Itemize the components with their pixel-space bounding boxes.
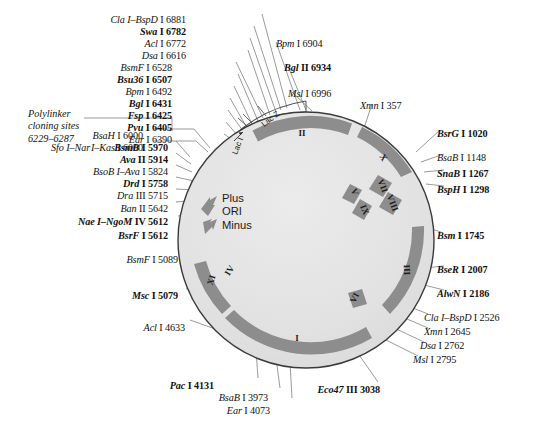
site-position: 4633 — [163, 322, 185, 333]
site-position: 6405 — [150, 122, 172, 133]
site-position: 1298 — [467, 184, 489, 195]
site-label-right-1: BsaB I 1148 — [437, 152, 486, 164]
polylinker-line-1: Polylinker — [28, 108, 79, 120]
enzyme-name-part: Dra — [117, 190, 133, 201]
enzyme-name-part: BsrF — [118, 230, 139, 241]
enzyme-name-part: BsaH — [93, 130, 115, 141]
enzyme-name-part: Msl — [413, 354, 428, 365]
site-label-bottom-0: Eco47 III 3038 — [317, 384, 380, 396]
enzyme-name-part: Nae — [78, 216, 95, 227]
site-label-left-13: Sfo I–Nar — [51, 142, 90, 154]
site-label-left-0: Acl I 4633 — [144, 322, 185, 334]
ori-minus-label: Minus — [222, 219, 252, 232]
enzyme-name-part: Drd — [123, 178, 139, 189]
site-label-top-left-4: BsmF I 6528 — [120, 62, 172, 74]
site-label-right-6: AlwN I 2186 — [437, 288, 489, 300]
site-position: 4131 — [192, 380, 214, 391]
enzyme-name-part: I–BspD — [441, 312, 472, 323]
site-position: 5642 — [146, 203, 168, 214]
enzyme-name-part: BsoB — [93, 166, 114, 177]
enzyme-name-part: Cla — [424, 312, 438, 323]
enzyme-name-part: Pac — [170, 380, 186, 391]
site-position: 6772 — [164, 38, 186, 49]
enzyme-name-part: Acl — [144, 322, 157, 333]
site-label-right-7: Cla I–BspD I 2526 — [424, 312, 500, 324]
enzyme-name-part: III — [346, 384, 358, 395]
site-label-right-10: Msl I 2795 — [413, 354, 456, 366]
site-label-top-right-2: Msl I 6996 — [288, 88, 331, 100]
plasmid-map-figure: II X V IX VII VIII III VI I XI IV Lac Z … — [0, 0, 535, 428]
site-position: 2526 — [477, 312, 499, 323]
site-position: 5079 — [156, 290, 178, 301]
site-label-left-5: Ban II 5642 — [120, 203, 168, 215]
site-label-top-right-3: Xmn I 357 — [360, 100, 402, 112]
site-position: 3973 — [246, 392, 268, 403]
site-label-top-left-1: Swa I 6782 — [140, 26, 186, 38]
site-position: 6507 — [150, 74, 172, 85]
enzyme-name-part: BseR — [437, 264, 459, 275]
enzyme-name-part: II — [138, 154, 146, 165]
enzyme-name-part: I–Kas — [91, 142, 115, 153]
enzyme-name-part: AlwN — [437, 288, 460, 299]
enzyme-name-part: Bsm — [437, 230, 455, 241]
site-label-left-1: Msc I 5079 — [132, 290, 178, 302]
enzyme-name-part: Swa — [140, 26, 157, 37]
site-position: 6425 — [150, 110, 172, 121]
site-position: 5612 — [146, 230, 168, 241]
site-label-bottom-2: BsaB I 3973 — [219, 392, 268, 404]
site-position: 1148 — [464, 152, 486, 163]
site-label-left-7: Drd I 5758 — [123, 178, 168, 190]
site-position: 1020 — [465, 128, 487, 139]
enzyme-name-part: I–Ava — [117, 166, 140, 177]
site-label-right-4: Bsm I 1745 — [437, 230, 484, 242]
site-label-bottom-1: Ear I 4073 — [227, 405, 270, 417]
enzyme-name-part: I–BspD — [127, 14, 158, 25]
ori-label: ORI — [222, 205, 252, 218]
site-position: 1745 — [462, 230, 484, 241]
enzyme-name-part: Dsa — [420, 340, 436, 351]
site-position: 6528 — [150, 62, 172, 73]
enzyme-name-part: IV — [135, 216, 146, 227]
site-label-left-3: BsrF I 5612 — [118, 230, 168, 242]
enzyme-name-part: II — [139, 203, 146, 214]
site-label-right-0: BsrG I 1020 — [437, 128, 487, 140]
enzyme-name-part: Xmn — [424, 326, 442, 337]
site-position: 357 — [384, 100, 401, 111]
site-label-right-2: SnaB I 1267 — [437, 168, 489, 180]
site-label-top-left-2: Acl I 6772 — [145, 38, 186, 50]
enzyme-name-part: Bgl — [129, 98, 143, 109]
site-position: 5089 — [156, 254, 178, 265]
site-position: 6000 — [121, 142, 143, 153]
enzyme-name-part: Ava — [120, 154, 135, 165]
enzyme-name-part: III — [136, 190, 146, 201]
site-position: 6934 — [309, 62, 331, 73]
site-label-left-6: Dra III 5715 — [117, 190, 168, 202]
site-label-left-11: BsaH I 6000 — [93, 130, 143, 142]
enzyme-name-part: SnaB — [437, 168, 460, 179]
site-position: 2007 — [465, 264, 487, 275]
site-position: 2186 — [467, 288, 489, 299]
enzyme-name-part: Ban — [120, 203, 136, 214]
enzyme-name-part: BspH — [437, 184, 460, 195]
site-position: 2762 — [442, 340, 464, 351]
site-position: 5824 — [146, 166, 168, 177]
enzyme-name-part: BsaB — [437, 152, 458, 163]
site-label-bottom-3: Pac I 4131 — [170, 380, 214, 392]
site-position: 6996 — [309, 88, 331, 99]
ori-plus-label: Plus — [222, 192, 252, 205]
enzyme-name-part: Bpm — [125, 86, 143, 97]
site-label-right-5: BseR I 2007 — [437, 264, 487, 276]
plasmid-circle — [178, 112, 434, 368]
site-label-top-left-3: Dsa I 6616 — [142, 50, 186, 62]
site-position: 5758 — [146, 178, 168, 189]
site-position: 6881 — [164, 14, 186, 25]
site-position: 6616 — [164, 50, 186, 61]
enzyme-name-part: Cla — [110, 14, 124, 25]
enzyme-name-part: BsmF — [126, 254, 149, 265]
enzyme-name-part: BsmF — [120, 62, 143, 73]
site-position: 6000 — [121, 130, 143, 141]
site-label-left-8: BsoB I–Ava I 5824 — [93, 166, 168, 178]
site-position: 2795 — [434, 354, 456, 365]
site-label-left-9: Ava II 5914 — [120, 154, 168, 166]
enzyme-name-part: Msc — [132, 290, 149, 301]
